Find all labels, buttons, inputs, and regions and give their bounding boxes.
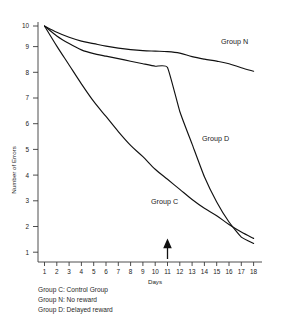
x-tick-label: 5	[92, 268, 96, 275]
x-tick-label: 6	[104, 268, 108, 275]
legend-item: Group D: Delayed reward	[38, 306, 113, 314]
y-tick-label: 1	[25, 249, 29, 256]
y-axis-title: Number of Errors	[10, 146, 17, 193]
y-tick-label: 7	[25, 94, 29, 101]
x-tick-label: 17	[238, 268, 246, 275]
y-tick-label: 2	[25, 223, 29, 230]
y-tick-label: 8	[25, 69, 29, 76]
latent-learning-line-chart: 1 2 3 4 5 6 7 8 9 10 Number of Errors	[0, 0, 306, 321]
y-tick-label: 10	[22, 22, 30, 29]
x-tick-label: 8	[129, 268, 133, 275]
series-label-group-d: Group D	[202, 134, 229, 143]
series-label-group-c: Group C	[151, 197, 178, 206]
x-tick-label: 2	[55, 268, 59, 275]
x-tick-label: 12	[176, 268, 184, 275]
legend-item: Group C: Control Group	[38, 286, 108, 294]
x-axis-title: Days	[148, 278, 162, 285]
x-tick-label: 18	[250, 268, 258, 275]
y-tick-label: 6	[25, 120, 29, 127]
series-label-group-n: Group N	[221, 37, 248, 46]
x-tick-label: 9	[141, 268, 145, 275]
x-tick-label: 3	[67, 268, 71, 275]
x-tick-label: 13	[189, 268, 197, 275]
x-tick-label: 1	[43, 268, 47, 275]
y-tick-label: 3	[25, 197, 29, 204]
y-tick-label: 4	[25, 172, 29, 179]
legend-item: Group N: No reward	[38, 296, 97, 304]
x-tick-label: 7	[117, 268, 121, 275]
y-tick-label: 9	[25, 43, 29, 50]
x-tick-label: 14	[201, 268, 209, 275]
x-tick-label: 10	[152, 268, 160, 275]
x-tick-label: 4	[80, 268, 84, 275]
x-tick-label: 16	[225, 268, 233, 275]
chart-figure: 1 2 3 4 5 6 7 8 9 10 Number of Errors	[0, 0, 306, 321]
x-tick-label: 15	[213, 268, 221, 275]
y-tick-label: 5	[25, 146, 29, 153]
x-tick-label: 11	[164, 268, 171, 275]
